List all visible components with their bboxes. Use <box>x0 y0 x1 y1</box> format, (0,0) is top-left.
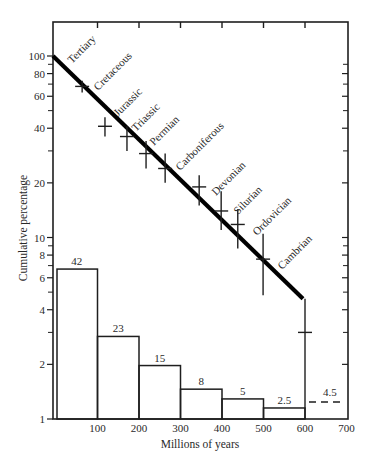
bar-value-label: 42 <box>71 255 82 267</box>
era-labels: TertiaryCretaceousJurassicTriassicPermia… <box>65 32 315 271</box>
y-tick-label: 100 <box>29 50 46 62</box>
y-tick-label: 8 <box>40 249 46 261</box>
x-tick-label: 600 <box>297 422 314 434</box>
survivorship-chart: 100200300400500600700 100806040201086421… <box>0 0 367 464</box>
y-tick-label: 2 <box>40 358 46 370</box>
y-tick-label: 20 <box>34 177 46 189</box>
bar-value-label: 2.5 <box>277 394 291 406</box>
error-bars <box>75 81 312 419</box>
histogram-bar <box>222 399 264 419</box>
x-axis: 100200300400500600700 <box>89 22 355 434</box>
y-tick-label: 4 <box>40 304 46 316</box>
era-label: Cretaceous <box>91 49 134 92</box>
era-label: Cambrian <box>275 232 315 272</box>
era-label: Devonian <box>209 158 248 197</box>
extension-value-label: 4.5 <box>323 386 337 398</box>
era-label: Ordovician <box>250 194 294 238</box>
y-tick-label: 80 <box>34 68 46 80</box>
bar-value-label: 23 <box>113 322 125 334</box>
bar-value-label: 5 <box>240 385 246 397</box>
y-tick-label: 6 <box>40 272 46 284</box>
y-axis-title: Cumulative percentage <box>17 175 30 281</box>
bar-value-label: 8 <box>199 375 205 387</box>
histogram-bar <box>264 408 306 419</box>
era-label: Carboniferous <box>173 119 226 172</box>
trend-line-segment <box>53 56 303 299</box>
y-tick-label: 1 <box>40 413 46 425</box>
era-label: Tertiary <box>65 32 98 65</box>
trend-line <box>53 56 303 299</box>
histogram-bar <box>57 269 98 419</box>
x-axis-title: Millions of years <box>161 438 240 451</box>
y-tick-label: 40 <box>34 122 46 134</box>
histogram-bar <box>181 389 223 419</box>
x-tick-label: 500 <box>255 422 272 434</box>
x-tick-label: 700 <box>338 422 355 434</box>
era-label: Silurian <box>231 183 264 216</box>
histogram-bar <box>139 366 181 419</box>
x-tick-label: 400 <box>214 422 231 434</box>
x-tick-label: 200 <box>131 422 148 434</box>
y-tick-label: 10 <box>34 232 46 244</box>
chart-canvas: 100200300400500600700 100806040201086421… <box>0 0 367 464</box>
x-tick-label: 300 <box>172 422 189 434</box>
bar-value-label: 15 <box>154 352 166 364</box>
x-tick-label: 100 <box>89 422 106 434</box>
y-tick-label: 60 <box>34 90 46 102</box>
histogram-bar <box>98 336 140 419</box>
histogram-bars: 422315852.54.5 <box>57 255 344 419</box>
